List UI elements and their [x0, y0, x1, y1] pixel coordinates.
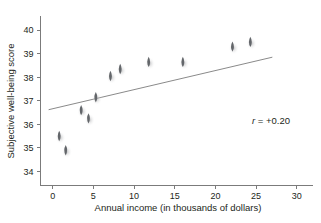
scatter-plot-figure: 34353637383940 051015202530 Annual incom… — [0, 0, 321, 223]
y-tick-label: 36 — [23, 120, 33, 130]
y-tick-label: 39 — [23, 49, 33, 59]
regression-line — [49, 57, 273, 109]
x-tick-label: 30 — [292, 191, 302, 201]
y-tick-label: 34 — [23, 167, 33, 177]
y-tick-label: 37 — [23, 96, 33, 106]
y-axis-title: Subjective well-being score — [5, 43, 16, 158]
x-axis-ticks: 051015202530 — [50, 186, 302, 201]
data-points — [55, 37, 257, 158]
x-axis-title: Annual income (in thousands of dollars) — [95, 202, 262, 213]
y-axis-ticks: 34353637383940 — [23, 25, 40, 176]
y-tick-label: 38 — [23, 73, 33, 83]
x-tick-label: 0 — [50, 191, 55, 201]
trend-line-group — [49, 57, 273, 109]
correlation-annotation: r = +0.20 — [252, 115, 290, 126]
axes — [41, 16, 314, 186]
x-tick-label: 5 — [91, 191, 96, 201]
y-tick-label: 40 — [23, 25, 33, 35]
x-tick-label: 20 — [210, 191, 220, 201]
x-tick-label: 10 — [129, 191, 139, 201]
y-tick-label: 35 — [23, 143, 33, 153]
correlation-value: = +0.20 — [255, 115, 290, 126]
x-tick-label: 25 — [251, 191, 261, 201]
chart-canvas: 34353637383940 051015202530 Annual incom… — [0, 0, 321, 223]
x-tick-label: 15 — [170, 191, 180, 201]
